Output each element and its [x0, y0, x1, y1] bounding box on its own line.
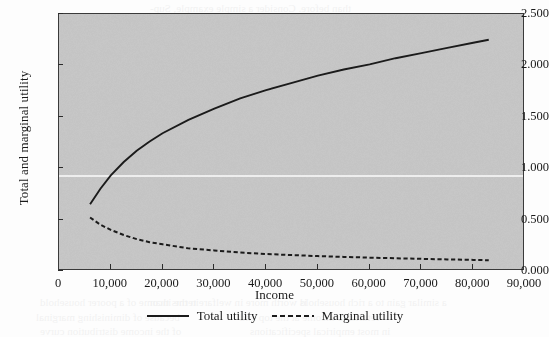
utility-income-chart: 0.0000.5001.0001.5002.0002.500 010,00020…	[0, 0, 549, 337]
x-tick-mark	[162, 264, 163, 269]
y-tick-mark	[58, 13, 63, 14]
y-tick-label: 1.000	[497, 161, 549, 174]
legend-solid-line-icon	[146, 311, 190, 321]
y-tick-mark	[58, 219, 63, 220]
legend-item-total-utility: Total utility	[146, 308, 258, 324]
y-tick-mark	[58, 167, 63, 168]
y-tick-label: 0.500	[497, 213, 549, 226]
legend-label-marginal-utility: Marginal utility	[322, 308, 404, 324]
y-tick-mark	[58, 64, 63, 65]
x-tick-mark	[213, 264, 214, 269]
series-total-utility	[90, 40, 489, 204]
series-marginal-utility	[90, 218, 489, 261]
y-tick-label: 0.000	[497, 264, 549, 277]
y-tick-mark	[58, 116, 63, 117]
series-curves	[59, 14, 524, 270]
chart-legend: Total utility Marginal utility	[0, 308, 549, 324]
x-axis-label: Income	[0, 287, 549, 303]
x-tick-mark	[369, 264, 370, 269]
x-tick-mark	[472, 264, 473, 269]
plot-area	[58, 13, 524, 270]
x-tick-mark	[110, 264, 111, 269]
y-tick-label: 2.000	[497, 58, 549, 71]
legend-dashed-line-icon	[271, 311, 315, 321]
x-tick-mark	[420, 264, 421, 269]
legend-label-total-utility: Total utility	[197, 308, 258, 324]
x-tick-mark	[265, 264, 266, 269]
y-tick-label: 1.500	[497, 110, 549, 123]
legend-item-marginal-utility: Marginal utility	[271, 308, 404, 324]
x-tick-mark	[317, 264, 318, 269]
y-axis-label: Total and marginal utility	[16, 38, 32, 238]
y-tick-mark	[58, 270, 63, 271]
y-tick-label: 2.500	[497, 7, 549, 20]
